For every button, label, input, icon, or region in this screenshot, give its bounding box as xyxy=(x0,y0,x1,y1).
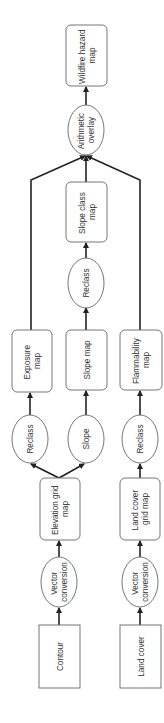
node-label: Land cover xyxy=(137,636,146,677)
node-label: Slope class xyxy=(78,192,87,234)
node-label: Arithmetic xyxy=(77,113,86,149)
edge-elevation-reclass xyxy=(31,464,59,478)
node-vector-conversion-landcover: Vector conversion xyxy=(122,557,158,607)
node-label: Elevation grid xyxy=(51,485,60,535)
node-flammability-map: Flammability map xyxy=(120,330,162,390)
node-label: overlay xyxy=(87,116,96,143)
node-label: Contour xyxy=(56,642,65,671)
node-label: Vector xyxy=(131,571,140,594)
node-label: Wildfire hazard xyxy=(78,29,87,84)
node-label: conversion xyxy=(60,562,69,602)
svg-text:Land cover grid map: Land cover grid map xyxy=(131,488,150,531)
node-elevation-grid-map: Elevation grid map xyxy=(40,478,80,540)
svg-text:Land cover: Land cover xyxy=(137,636,146,677)
node-label: Vector xyxy=(50,571,59,594)
node-label: Reclass xyxy=(26,424,35,453)
node-slope: Slope xyxy=(68,415,104,463)
node-label: conversion xyxy=(141,562,150,602)
node-slope-map: Slope map xyxy=(66,330,107,390)
node-arithmetic-overlay: Arithmetic overlay xyxy=(68,105,104,155)
svg-text:Contour: Contour xyxy=(56,642,65,671)
node-contour: Contour xyxy=(39,625,80,688)
edge-elevation-slope xyxy=(59,464,84,478)
svg-text:Slope map: Slope map xyxy=(83,340,92,380)
node-vector-conversion-contour: Vector conversion xyxy=(41,557,77,607)
node-label: map xyxy=(88,47,97,63)
node-label: Land cover xyxy=(131,490,140,531)
node-label: Flammability xyxy=(132,337,141,384)
node-label: map xyxy=(61,501,70,517)
svg-text:Slope: Slope xyxy=(82,428,91,449)
node-label: map xyxy=(88,204,97,220)
node-label: Reclass xyxy=(136,424,145,453)
node-label: Slope map xyxy=(83,340,92,380)
node-reclass-flammability: Reclass xyxy=(122,415,158,463)
svg-text:Reclass: Reclass xyxy=(82,268,91,297)
svg-text:Reclass: Reclass xyxy=(26,424,35,453)
node-reclass-slope: Reclass xyxy=(68,258,104,308)
node-slope-class-map: Slope class map xyxy=(66,182,107,242)
node-label: grid map xyxy=(141,493,150,525)
node-wildfire-hazard-map: Wildfire hazard map xyxy=(66,25,107,86)
node-label: map xyxy=(33,353,42,369)
node-label: Exposure xyxy=(23,344,32,379)
node-exposure-map: Exposure map xyxy=(12,330,52,392)
workflow-diagram: Wildfire hazard map Arithmetic overlay S… xyxy=(0,0,164,723)
node-land-cover: Land cover xyxy=(120,625,161,688)
node-label: map xyxy=(142,352,151,368)
node-land-cover-grid-map: Land cover grid map xyxy=(120,478,160,540)
node-reclass-exposure: Reclass xyxy=(12,415,48,463)
node-label: Reclass xyxy=(82,268,91,297)
node-label: Slope xyxy=(82,428,91,449)
svg-text:Reclass: Reclass xyxy=(136,424,145,453)
